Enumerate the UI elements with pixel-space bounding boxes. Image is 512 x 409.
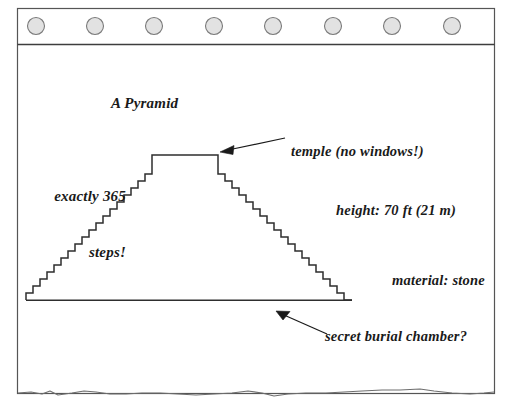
diagram-title: A Pyramid: [111, 94, 178, 113]
temple-leader-arrow: [220, 138, 285, 155]
temple-annotation: temple (no windows!): [291, 142, 424, 160]
binder-hole-icon: [146, 18, 163, 35]
height-annotation: height: 70 ft (21 m): [336, 201, 456, 219]
binder-hole-icon: [325, 18, 342, 35]
page-bottom-deckle-edge: [18, 389, 494, 396]
binder-hole-row: [28, 18, 461, 35]
burial-chamber-annotation: secret burial chamber?: [325, 327, 467, 345]
chamber-leader-arrow: [276, 311, 327, 334]
binder-hole-icon: [444, 18, 461, 35]
binder-hole-icon: [206, 18, 223, 35]
steps-annotation-line-1: exactly 365: [20, 187, 126, 206]
pyramid-diagram-canvas: A Pyramid exactly 365 steps! temple (no …: [0, 0, 512, 409]
binder-hole-icon: [265, 18, 282, 35]
binder-hole-icon: [87, 18, 104, 35]
steps-annotation: exactly 365 steps!: [20, 149, 126, 299]
binder-hole-icon: [384, 18, 401, 35]
material-annotation: material: stone: [392, 271, 485, 289]
binder-hole-icon: [28, 18, 45, 35]
steps-annotation-line-2: steps!: [20, 243, 126, 262]
